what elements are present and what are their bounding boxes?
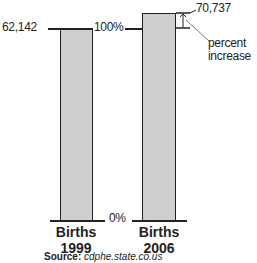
baseline-right <box>132 220 187 222</box>
value-label-1999: 62,142 <box>2 20 37 34</box>
baseline-left <box>50 220 105 222</box>
tick-0-percent: 0% <box>109 211 126 225</box>
tick-100-percent: 100% <box>94 20 124 34</box>
bar-births-2006 <box>142 13 176 221</box>
value-label-2006: 70,737 <box>196 1 231 15</box>
source-note: Source: cdphe.state.co.us <box>44 251 162 262</box>
percent-increase-annotation: percent increase <box>208 37 256 63</box>
bar-births-1999 <box>60 28 93 221</box>
hundred-percent-line-right <box>125 28 142 30</box>
hundred-percent-line-left <box>48 28 93 30</box>
